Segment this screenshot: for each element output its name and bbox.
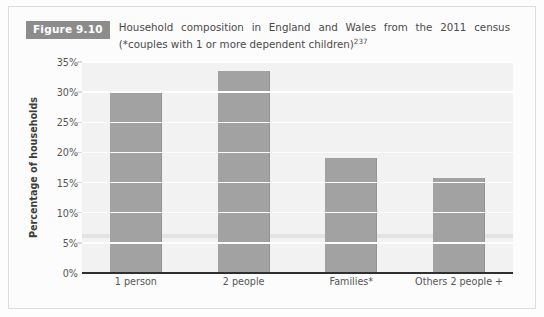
y-axis-tick-label: 25%: [57, 117, 78, 128]
y-axis-title-text: Percentage of households: [28, 97, 39, 238]
y-axis-title: Percentage of households: [23, 62, 43, 272]
bar-others-2-people[interactable]: [433, 178, 485, 273]
y-axis-tick-labels: 0%5%10%15%20%25%30%35%: [46, 62, 80, 273]
gridline: [82, 212, 513, 214]
caption-line-2-text: (*couples with 1 or more dependent child…: [119, 38, 354, 50]
y-axis-tick-label: 35%: [57, 57, 78, 68]
gridline: [82, 152, 513, 154]
y-axis-tick-label: 10%: [57, 207, 78, 218]
y-axis-tick-label: 30%: [57, 87, 78, 98]
y-axis-tick-label: 0%: [63, 268, 78, 279]
plot-area: [82, 62, 513, 273]
caption-text: Household composition in England and Wal…: [119, 21, 510, 51]
x-axis-tick-label: 2 people: [190, 276, 298, 287]
bar-chart: Percentage of households 0%5%10%15%20%25…: [26, 62, 513, 295]
y-axis-tickmark: [77, 242, 82, 244]
y-axis-tick-label: 20%: [57, 147, 78, 158]
caption-line-1: Household composition in England and Wal…: [119, 21, 510, 35]
bar-families[interactable]: [325, 158, 377, 273]
y-axis-tick-label: 5%: [63, 237, 78, 248]
figure-container: Figure 9.10 Household composition in Eng…: [0, 0, 544, 317]
y-axis-tick-label: 15%: [57, 177, 78, 188]
y-axis-tickmark: [77, 61, 82, 63]
x-axis-tick-label: 1 person: [82, 276, 190, 287]
gridline: [82, 182, 513, 184]
x-axis-tick-labels: 1 person2 peopleFamilies*Others 2 people…: [82, 276, 513, 287]
x-axis-tick-label: Families*: [298, 276, 406, 287]
caption-reference-superscript: 237: [354, 37, 368, 46]
figure-caption: Figure 9.10 Household composition in Eng…: [26, 21, 510, 51]
y-axis-tickmark: [77, 212, 82, 214]
y-axis-tickmark: [77, 152, 82, 154]
gridline: [82, 122, 513, 124]
y-axis-tickmark: [77, 91, 82, 93]
x-axis-tick-label: Others 2 people +: [405, 276, 513, 287]
y-axis-tickmark: [77, 182, 82, 184]
gridline: [82, 242, 513, 244]
x-axis-line: [82, 272, 513, 275]
caption-line-2: (*couples with 1 or more dependent child…: [119, 35, 510, 52]
gridline: [82, 61, 513, 63]
figure-number-badge: Figure 9.10: [26, 21, 110, 39]
gridline: [82, 91, 513, 93]
y-axis-tickmark: [77, 122, 82, 124]
